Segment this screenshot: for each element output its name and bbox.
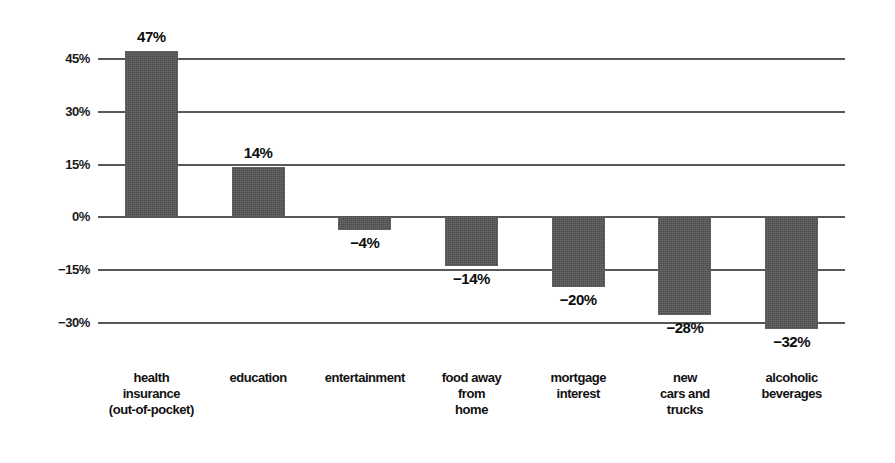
bar xyxy=(552,216,605,286)
bar xyxy=(658,216,711,315)
gridline xyxy=(98,322,845,324)
bar xyxy=(125,51,178,216)
bar xyxy=(232,167,285,216)
bar-chart: 45% 30% 15% 0% −15% −30% 47% 14% −4% −14… xyxy=(0,0,895,463)
bar xyxy=(765,216,818,329)
category-label: education xyxy=(200,370,316,386)
y-tick-label: 15% xyxy=(36,156,90,171)
gridline xyxy=(98,164,845,166)
bar-value-label: −28% xyxy=(640,319,730,336)
category-label: food away from home xyxy=(414,370,530,418)
gridline xyxy=(98,111,845,113)
plot-area: 47% 14% −4% −14% −20% −28% −32% xyxy=(98,58,845,322)
y-tick-label: 45% xyxy=(36,51,90,66)
bar-value-label: −4% xyxy=(320,234,410,251)
bar xyxy=(338,216,391,230)
bar-value-label: −14% xyxy=(427,270,517,287)
bar xyxy=(445,216,498,265)
bar-value-label: −32% xyxy=(747,333,837,350)
category-label: health insurance (out-of-pocket) xyxy=(93,370,209,418)
category-label: new cars and trucks xyxy=(627,370,743,418)
y-tick-label: −30% xyxy=(36,315,90,330)
category-label: alcoholic beverages xyxy=(734,370,850,402)
bar-value-label: 47% xyxy=(106,28,196,45)
bar-value-label: 14% xyxy=(213,144,303,161)
y-tick-label: −15% xyxy=(36,262,90,277)
bar-value-label: −20% xyxy=(533,291,623,308)
y-tick-label: 30% xyxy=(36,103,90,118)
category-label: mortgage interest xyxy=(520,370,636,402)
category-label: entertainment xyxy=(307,370,423,386)
y-tick-label: 0% xyxy=(36,209,90,224)
gridline xyxy=(98,58,845,60)
